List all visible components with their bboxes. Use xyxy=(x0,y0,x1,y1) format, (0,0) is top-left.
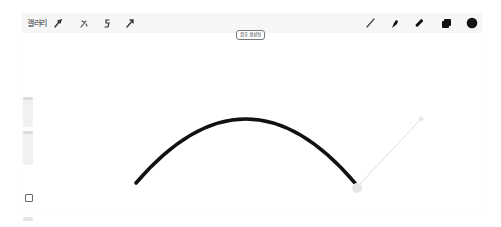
brush-icon[interactable] xyxy=(364,17,376,29)
arc-control-handle[interactable] xyxy=(419,117,424,122)
procreate-screen: 갤러리 원호 생성됨 xyxy=(22,13,482,215)
undo-button[interactable] xyxy=(23,217,33,221)
arc-control-line xyxy=(357,119,421,187)
drawing-canvas[interactable] xyxy=(22,33,482,215)
arrow-cursor-icon[interactable] xyxy=(124,17,136,29)
gallery-button[interactable]: 갤러리 xyxy=(27,17,47,28)
arc-end-handle[interactable] xyxy=(352,183,362,193)
selection-s-icon[interactable] xyxy=(101,17,113,29)
smudge-icon[interactable] xyxy=(388,17,400,29)
eraser-icon[interactable] xyxy=(414,17,426,29)
layers-icon[interactable] xyxy=(440,17,452,29)
wrench-icon[interactable] xyxy=(52,17,64,29)
arc-stroke xyxy=(136,119,355,183)
magic-wand-icon[interactable] xyxy=(78,17,90,29)
color-swatch-icon[interactable] xyxy=(466,17,478,29)
